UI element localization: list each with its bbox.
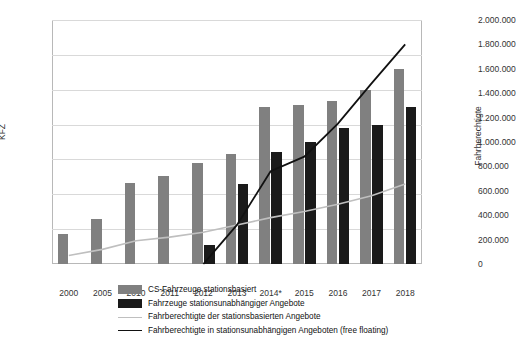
y-axis-right-tick-label: 1.600.000 <box>478 64 516 74</box>
legend-label: CS-Fahrzeuge stationsbasiert <box>148 285 256 294</box>
y-axis-right-tick-label: 800.000 <box>478 161 509 171</box>
plot-area: 02.0004.0006.0008.00010.00012.00014.000 … <box>52 20 422 264</box>
legend-label: Fahrzeuge stationsunabhängiger Angebote <box>148 299 305 308</box>
legend-item: Fahrberechtigte in stationsunabhängigen … <box>118 324 388 338</box>
y-axis-right-tick-label: 1.400.000 <box>478 88 516 98</box>
y-axis-right-tick-label: 1.200.000 <box>478 113 516 123</box>
x-axis-tick-label: 2005 <box>93 288 112 298</box>
y-axis-right-tick-label: 1.800.000 <box>478 39 516 49</box>
line-path <box>203 44 405 264</box>
y-axis-right-tick-label: 600.000 <box>478 186 509 196</box>
y-axis-left-title: KFZ <box>0 124 7 140</box>
y-axis-right-tick-label: 1.000.000 <box>478 137 516 147</box>
y-axis-right-tick-label: 2.000.000 <box>478 15 516 25</box>
chart-legend: CS-Fahrzeuge stationsbasiertFahrzeuge st… <box>118 283 388 337</box>
legend-label: Fahrberechtigte in stationsunabhängigen … <box>148 326 388 335</box>
y-axis-right-tick-label: 200.000 <box>478 235 509 245</box>
legend-item: Fahrzeuge stationsunabhängiger Angebote <box>118 297 388 311</box>
y-axis-right-tick-label: 400.000 <box>478 210 509 220</box>
legend-line-swatch <box>118 317 142 318</box>
legend-color-swatch <box>118 285 142 294</box>
legend-label: Fahrberechtigte der stationsbasierten An… <box>148 312 321 321</box>
x-axis-tick-label: 2018 <box>396 288 415 298</box>
legend-color-swatch <box>118 299 142 308</box>
legend-line-swatch <box>118 330 142 331</box>
line-path <box>69 184 405 255</box>
y-axis-right-tick-label: 0 <box>478 259 483 269</box>
legend-item: CS-Fahrzeuge stationsbasiert <box>118 283 388 297</box>
line-series-group <box>52 20 422 264</box>
legend-item: Fahrberechtigte der stationsbasierten An… <box>118 310 388 324</box>
x-axis-tick-label: 2000 <box>59 288 78 298</box>
